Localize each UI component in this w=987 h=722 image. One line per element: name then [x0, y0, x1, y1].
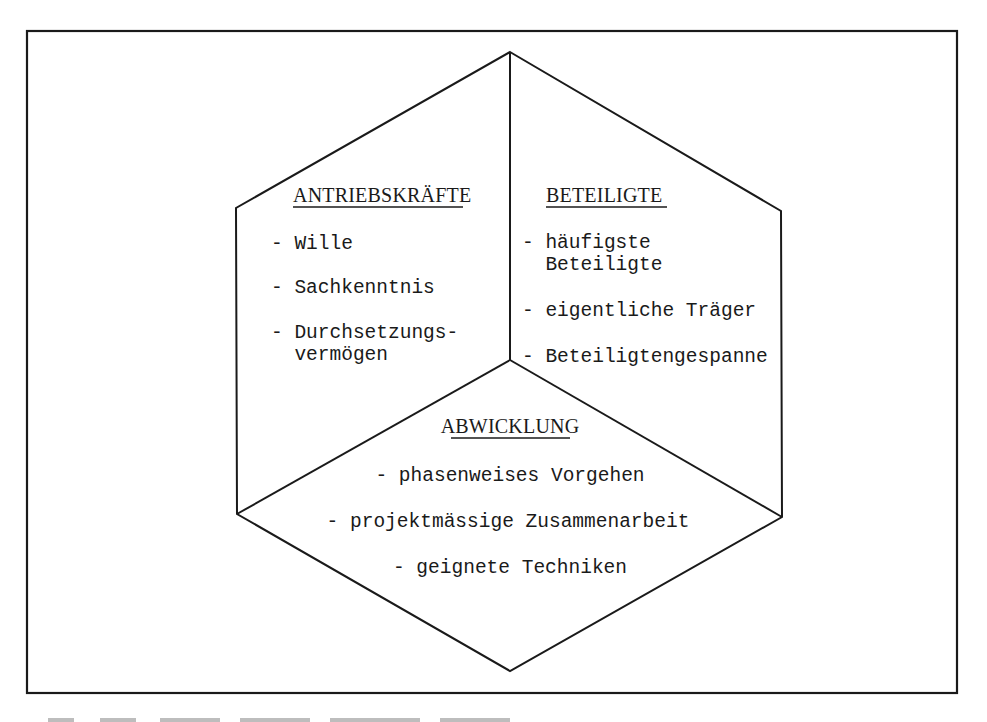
section-title: BETEILIGTE	[546, 184, 662, 206]
caption-cutoff	[48, 718, 510, 722]
list-item: - projektmässige Zusammenarbeit	[327, 511, 690, 533]
list-item: - geignete Techniken	[393, 557, 627, 579]
list-item-continuation: Beteiligte	[522, 254, 662, 276]
list-item: - Durchsetzungs-	[271, 322, 458, 344]
section-beteiligte: BETEILIGTE - häufigste Beteiligte - eige…	[522, 184, 768, 368]
section-title: ABWICKLUNG	[441, 415, 580, 437]
section-title: ANTRIEBSKRÄFTE	[293, 184, 471, 206]
figure-frame	[27, 31, 957, 693]
section-abwicklung: ABWICKLUNG - phasenweises Vorgehen - pro…	[327, 415, 690, 579]
diagram-canvas: ANTRIEBSKRÄFTE - Wille - Sachkenntnis - …	[0, 0, 987, 722]
list-item: - Wille	[271, 233, 353, 255]
list-item-continuation: vermögen	[271, 344, 388, 366]
list-item: - Beteiligtengespanne	[522, 346, 768, 368]
list-item: - häufigste	[522, 232, 651, 254]
list-item: - Sachkenntnis	[271, 277, 435, 299]
cube-edge-left	[237, 360, 510, 514]
list-item: - phasenweises Vorgehen	[375, 465, 644, 487]
section-antriebskraefte: ANTRIEBSKRÄFTE - Wille - Sachkenntnis - …	[271, 184, 471, 366]
list-item: - eigentliche Träger	[522, 300, 756, 322]
